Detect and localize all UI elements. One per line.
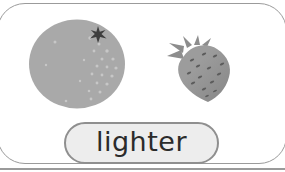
word-pill[interactable]: lighter (64, 122, 219, 164)
flashcard-screen: lighter (0, 0, 285, 172)
orange-image (28, 18, 126, 110)
flashcard-card: lighter (0, 3, 285, 164)
word-label: lighter (96, 128, 187, 158)
strawberry-image (160, 33, 240, 107)
bottom-divider (0, 168, 285, 170)
